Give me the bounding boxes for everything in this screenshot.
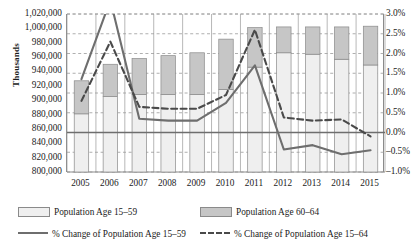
y-axis-tick-label: 900,000	[16, 95, 62, 104]
bar-segment-60-64[interactable]	[334, 27, 348, 59]
legend-label: % Change of Population Age 15–64	[234, 229, 368, 239]
y-axis-tick-label: 800,000	[16, 167, 62, 176]
y-axis-right-tick-label: 3.0%	[386, 9, 420, 18]
x-axis-tick-label: 2006	[93, 178, 125, 188]
y-axis-right-tick-label: 0.5%	[386, 108, 420, 117]
legend-swatch-dark-icon	[200, 207, 232, 217]
y-axis-tick-label: 1,020,000	[16, 9, 62, 18]
y-axis-tick-label: 1,000,000	[16, 23, 62, 32]
bar-segment-60-64[interactable]	[103, 64, 117, 96]
y-axis-right-tick-label: 2.0%	[386, 49, 420, 58]
y-axis-right-tick-label: 1.5%	[386, 68, 420, 77]
legend-line-solid-icon	[18, 232, 48, 234]
bar-segment-60-64[interactable]	[132, 59, 146, 95]
y-axis-tick-label: 820,000	[16, 153, 62, 162]
legend-label: Population Age 15–59	[54, 207, 137, 217]
bar-segment-60-64[interactable]	[277, 27, 291, 53]
y-axis-right-tick-label: 2.5%	[386, 29, 420, 38]
y-axis-right-tick-label: 1.0%	[386, 88, 420, 97]
y-axis-right-tick-label: 0.0%	[386, 128, 420, 137]
legend-label: % Change of Population Age 15–59	[52, 229, 186, 239]
x-axis-tick-label: 2013	[296, 178, 328, 188]
x-axis-tick-label: 2009	[180, 178, 212, 188]
legend-item-pct-change-15-64: % Change of Population Age 15–64	[200, 228, 368, 239]
bar-segment-15-59[interactable]	[306, 54, 320, 172]
legend-item-population-60-64: Population Age 60–64	[200, 206, 319, 217]
bar-segment-60-64[interactable]	[306, 27, 320, 54]
legend-label: Population Age 60–64	[236, 207, 319, 217]
x-axis-tick-label: 2005	[64, 178, 96, 188]
y-axis-right-tick-label: –0.5%	[386, 147, 420, 156]
y-axis-tick-label: 940,000	[16, 66, 62, 75]
y-axis-tick-label: 840,000	[16, 138, 62, 147]
y-axis-tick-label: 880,000	[16, 110, 62, 119]
x-axis-tick-label: 2015	[354, 178, 386, 188]
population-change-chart: Thousands 1,020,0001,000,000980,000960,0…	[0, 0, 420, 251]
bar-segment-60-64[interactable]	[363, 26, 377, 65]
y-axis-tick-label: 960,000	[16, 52, 62, 61]
x-axis-tick-label: 2010	[209, 178, 241, 188]
bar-segment-60-64[interactable]	[190, 53, 204, 95]
bar-segment-15-59[interactable]	[363, 65, 377, 172]
x-axis-tick-label: 2012	[267, 178, 299, 188]
bar-segment-15-59[interactable]	[74, 114, 88, 172]
y-axis-tick-label: 860,000	[16, 124, 62, 133]
x-axis-tick-label: 2014	[325, 178, 357, 188]
bar-segment-15-59[interactable]	[161, 94, 175, 172]
plot-area	[66, 14, 384, 172]
y-axis-tick-label: 980,000	[16, 38, 62, 47]
bar-segment-15-59[interactable]	[277, 53, 291, 172]
legend-line-dashed-icon	[200, 232, 230, 234]
x-axis-tick-label: 2007	[122, 178, 154, 188]
x-axis-tick-label: 2008	[151, 178, 183, 188]
y-axis-tick-label: 920,000	[16, 81, 62, 90]
legend-item-pct-change-15-59: % Change of Population Age 15–59	[18, 228, 186, 239]
y-axis-right-tick-label: –1.0%	[386, 167, 420, 176]
legend-item-population-15-59: Population Age 15–59	[18, 206, 137, 217]
bar-segment-60-64[interactable]	[161, 56, 175, 95]
x-axis-tick-label: 2011	[238, 178, 270, 188]
bar-segment-15-59[interactable]	[103, 97, 117, 172]
legend-swatch-light-icon	[18, 207, 50, 217]
bar-segment-60-64[interactable]	[74, 81, 88, 114]
